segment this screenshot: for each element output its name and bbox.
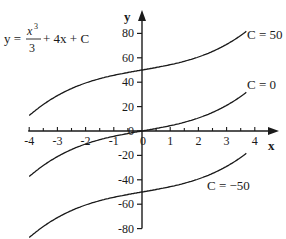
y-axis-arrow-icon [138, 10, 146, 21]
y-tick-label: 20 [122, 100, 134, 114]
y-tick-label: -60 [118, 197, 134, 211]
curve-label: C = 50 [247, 27, 283, 42]
x-axis-label: x [268, 138, 275, 153]
equation-numerator: x [26, 24, 33, 38]
x-tick-label: 0 [140, 134, 146, 148]
chart: y = x 3 3 + 4x + C xy-4-3-2-101234806040… [0, 0, 286, 239]
x-tick-label: 3 [224, 134, 230, 148]
y-axis-label: y [124, 9, 131, 24]
y-tick-label: 0 [128, 124, 134, 138]
y-tick-label: 80 [122, 26, 134, 40]
equation-exponent: 3 [34, 22, 38, 31]
x-axis-arrow-icon [268, 127, 279, 135]
curve-label: C = −50 [207, 178, 250, 193]
y-tick-label: -40 [118, 173, 134, 187]
y-tick-label: 60 [122, 51, 134, 65]
y-tick-label: -80 [118, 222, 134, 236]
equation-label: y = x 3 3 + 4x + C [4, 22, 89, 55]
x-tick-label: -3 [52, 134, 62, 148]
x-tick-label: -4 [24, 134, 34, 148]
curve-label: C = 0 [247, 77, 276, 92]
y-tick-label: 40 [122, 75, 134, 89]
x-tick-label: 1 [167, 134, 173, 148]
y-tick-label: -20 [118, 148, 134, 162]
x-tick-label: 2 [195, 134, 201, 148]
curve-c-neg50 [29, 153, 246, 237]
equation-denominator: 3 [29, 41, 35, 55]
equation-rest: + 4x + C [43, 31, 89, 46]
x-tick-label: 4 [252, 134, 258, 148]
equation-lhs: y = [4, 31, 21, 46]
